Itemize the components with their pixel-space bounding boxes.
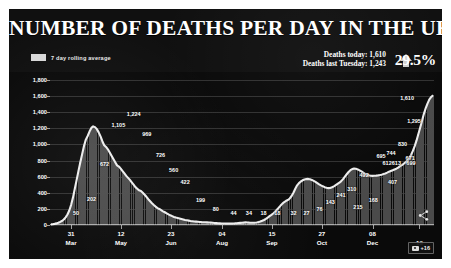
data-value-label: 612 — [383, 160, 392, 166]
y-axis-tick — [47, 225, 50, 226]
data-value-label: 143 — [326, 199, 335, 205]
y-axis-tick — [47, 144, 50, 145]
legend-label: 7 day rolling average — [51, 55, 111, 61]
x-axis-label: 31Mar — [66, 230, 77, 247]
data-value-label: 492 — [360, 172, 369, 178]
y-axis-tick — [47, 209, 50, 210]
data-value-label: 726 — [156, 152, 165, 158]
page-title: NUMBER OF DEATHS PER DAY IN THE UK — [9, 16, 442, 41]
x-axis-tick — [419, 225, 420, 229]
chart-header: NUMBER OF DEATHS PER DAY IN THE UK 7 day… — [9, 9, 442, 72]
deaths-today-stat: Deaths today: 1,610 — [303, 50, 386, 59]
y-axis-tick — [47, 161, 50, 162]
data-value-label: 32 — [290, 210, 296, 216]
data-value-label: 560 — [169, 167, 178, 173]
y-axis-label: 0 — [44, 222, 47, 228]
y-axis-tick — [47, 80, 50, 81]
data-value-label: 76 — [317, 206, 323, 212]
y-axis-label: 400 — [38, 190, 48, 196]
y-axis-tick — [47, 112, 50, 113]
data-value-label: 672 — [100, 161, 109, 167]
y-axis-label: 1,800 — [33, 77, 47, 83]
y-axis-label: 600 — [38, 174, 48, 180]
chart-card: NUMBER OF DEATHS PER DAY IN THE UK 7 day… — [9, 9, 442, 259]
chart-plot-area: 502026721,1051,2249697265604221998044341… — [9, 72, 442, 259]
data-value-label: 1,224 — [127, 111, 141, 117]
percent-change-value: 29.5% — [395, 51, 436, 69]
x-axis-tick — [121, 225, 122, 229]
x-axis-tick — [222, 225, 223, 229]
data-value-label: 18 — [274, 210, 280, 216]
data-value-label: 695 — [376, 153, 385, 159]
y-axis-tick — [47, 177, 50, 178]
y-axis-label: 1,400 — [33, 109, 47, 115]
y-axis-label: 1,000 — [33, 141, 47, 147]
y-axis-label: 1,600 — [33, 93, 47, 99]
data-value-label: 44 — [230, 210, 236, 216]
x-axis-tick — [373, 225, 374, 229]
y-axis-label: 800 — [38, 158, 48, 164]
data-value-label: 80 — [213, 206, 219, 212]
photo-count-label: +16 — [421, 245, 431, 251]
x-axis-label: 04Aug — [216, 230, 228, 247]
x-axis-label: 08Dec — [367, 230, 378, 247]
x-axis-line — [50, 224, 434, 225]
y-axis-tick — [47, 96, 50, 97]
data-value-label: 199 — [196, 197, 205, 203]
headline-stats: Deaths today: 1,610 Deaths last Tuesday:… — [303, 50, 386, 69]
data-value-label: 310 — [347, 186, 356, 192]
chart-legend: 7 day rolling average — [31, 54, 111, 61]
data-value-label: 613 — [392, 160, 401, 166]
y-axis-label: 1,200 — [33, 125, 47, 131]
legend-swatch-icon — [31, 54, 46, 61]
y-axis-tick — [47, 193, 50, 194]
data-value-label: 34 — [246, 210, 252, 216]
data-value-label: 215 — [353, 204, 362, 210]
data-value-label: 830 — [398, 141, 407, 147]
data-value-label: 18 — [260, 210, 266, 216]
data-value-label: 1,105 — [111, 122, 125, 128]
data-value-label: 969 — [142, 131, 151, 137]
x-axis-label: 15Sep — [266, 230, 277, 247]
x-axis-tick — [171, 225, 172, 229]
data-value-label: 744 — [386, 150, 395, 156]
x-axis-tick — [272, 225, 273, 229]
x-axis-label: 27Oct — [317, 230, 327, 247]
data-value-label: 422 — [181, 179, 190, 185]
camera-icon — [412, 246, 419, 251]
data-value-label: 407 — [388, 179, 397, 185]
y-axis-tick — [47, 128, 50, 129]
share-icon[interactable] — [417, 208, 430, 221]
data-value-label: 1,610 — [400, 95, 414, 101]
data-value-label: 241 — [336, 192, 345, 198]
data-value-label: 27 — [303, 210, 309, 216]
x-axis-label: 23Jun — [165, 230, 176, 247]
x-axis-tick — [71, 225, 72, 229]
photo-count-badge[interactable]: +16 — [408, 242, 435, 254]
data-value-label: 50 — [73, 210, 79, 216]
data-value-label: 1,295 — [407, 118, 421, 124]
x-axis-tick — [322, 225, 323, 229]
data-value-label: 168 — [369, 197, 378, 203]
data-value-label: 699 — [406, 160, 415, 166]
y-axis-label: 200 — [38, 206, 48, 212]
x-axis-label: 12May — [115, 230, 127, 247]
screenshot-root: NUMBER OF DEATHS PER DAY IN THE UK 7 day… — [0, 0, 451, 268]
deaths-last-tuesday-stat: Deaths last Tuesday: 1,243 — [303, 59, 386, 68]
data-value-label: 202 — [87, 196, 96, 202]
